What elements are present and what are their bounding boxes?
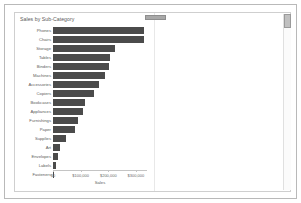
bar-row[interactable]: Paper: [53, 125, 147, 134]
bar-mark[interactable]: [53, 90, 94, 97]
category-label: Copiers: [37, 89, 51, 98]
bar-row[interactable]: Storage: [53, 44, 147, 53]
category-label: Fasteners: [32, 170, 51, 179]
bar-mark[interactable]: [53, 27, 144, 34]
bar-mark[interactable]: [53, 99, 85, 106]
category-label: Storage: [36, 44, 51, 53]
bar-row[interactable]: Phones: [53, 26, 147, 35]
category-label: Accessories: [28, 80, 51, 89]
x-axis-tick-label: $100,000: [72, 173, 89, 178]
worksheet-panel: Sales by Sub-Category PhonesChairsStorag…: [14, 12, 291, 192]
bar-mark[interactable]: [53, 117, 78, 124]
x-axis-tick-label: $300,000: [128, 173, 145, 178]
chart-viz[interactable]: Sales by Sub-Category PhonesChairsStorag…: [15, 13, 154, 191]
bar-row[interactable]: Binders: [53, 62, 147, 71]
bar-row[interactable]: Art: [53, 143, 147, 152]
x-axis-title: Sales: [53, 180, 147, 185]
bar-row[interactable]: Machines: [53, 71, 147, 80]
bar-row[interactable]: Appliances: [53, 107, 147, 116]
x-axis-tick: [108, 170, 109, 172]
x-axis-tick-label: $0: [51, 173, 55, 178]
x-axis-tick-label: $200,000: [100, 173, 117, 178]
bar-mark[interactable]: [53, 135, 66, 142]
category-label: Supplies: [35, 134, 51, 143]
bar-mark[interactable]: [53, 126, 75, 133]
category-label: Bookcases: [31, 98, 51, 107]
category-label: Envelopes: [31, 152, 51, 161]
bar-mark[interactable]: [53, 108, 83, 115]
bar-row[interactable]: Labels: [53, 161, 147, 170]
bar-mark[interactable]: [53, 81, 99, 88]
category-label: Phones: [37, 26, 51, 35]
bar-row[interactable]: Bookcases: [53, 98, 147, 107]
bar-row[interactable]: Tables: [53, 53, 147, 62]
x-axis-tick: [81, 170, 82, 172]
bar-row[interactable]: Supplies: [53, 134, 147, 143]
x-axis-tick: [53, 170, 54, 172]
category-label: Tables: [39, 53, 51, 62]
vertical-scrollbar-thumb[interactable]: [284, 14, 291, 28]
bar-mark[interactable]: [53, 153, 58, 160]
bar-mark[interactable]: [53, 45, 115, 52]
category-label: Furnishings: [29, 116, 51, 125]
bar-row[interactable]: Furnishings: [53, 116, 147, 125]
category-label: Machines: [33, 71, 51, 80]
bar-row[interactable]: Chairs: [53, 35, 147, 44]
chart-title: Sales by Sub-Category: [20, 16, 74, 23]
bar-mark[interactable]: [53, 54, 110, 61]
bar-row[interactable]: Copiers: [53, 89, 147, 98]
bar-row[interactable]: Envelopes: [53, 152, 147, 161]
category-label: Art: [46, 143, 51, 152]
bar-mark[interactable]: [53, 162, 56, 169]
bar-mark[interactable]: [53, 72, 105, 79]
bar-row[interactable]: Accessories: [53, 80, 147, 89]
bar-mark[interactable]: [53, 144, 60, 151]
panel-drag-handle[interactable]: [145, 15, 166, 20]
viz-divider: [154, 13, 155, 191]
x-axis-line: [53, 170, 147, 171]
category-label: Binders: [37, 62, 51, 71]
vertical-scrollbar[interactable]: [283, 14, 291, 190]
category-label: Appliances: [31, 107, 52, 116]
application-window: Sales by Sub-Category PhonesChairsStorag…: [4, 4, 297, 199]
category-label: Chairs: [39, 35, 51, 44]
bar-mark[interactable]: [53, 63, 109, 70]
x-axis-tick: [136, 170, 137, 172]
bar-mark[interactable]: [53, 36, 144, 43]
plot-area: PhonesChairsStorageTablesBindersMachines…: [53, 26, 147, 170]
category-label: Paper: [40, 125, 51, 134]
category-label: Labels: [39, 161, 51, 170]
